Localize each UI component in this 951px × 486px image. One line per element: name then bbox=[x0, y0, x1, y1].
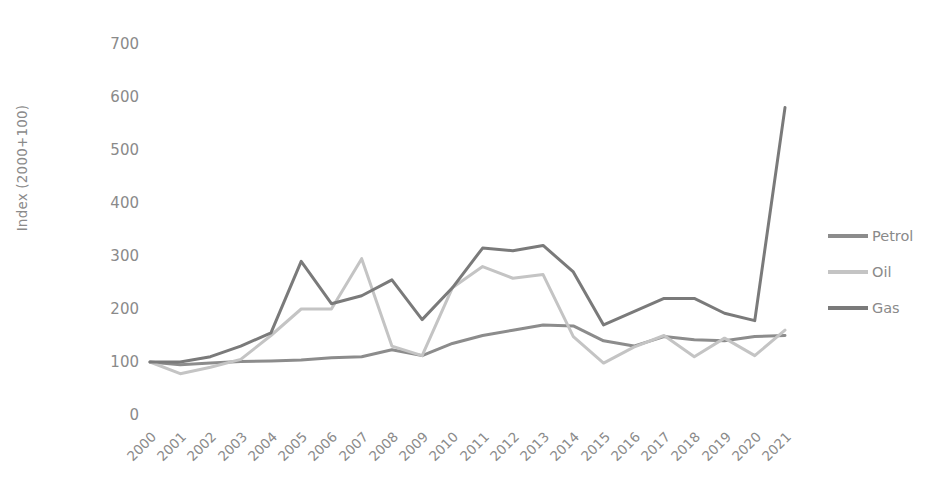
series-line-gas bbox=[150, 108, 785, 362]
plot-area bbox=[0, 0, 951, 486]
legend-label-petrol: Petrol bbox=[872, 229, 913, 244]
legend-label-gas: Gas bbox=[872, 301, 900, 316]
legend-swatch-petrol bbox=[828, 234, 868, 238]
legend-label-oil: Oil bbox=[872, 265, 891, 280]
line-chart: Index (2000+100) 0100200300400500600700 … bbox=[0, 0, 951, 486]
legend-item-petrol[interactable]: Petrol bbox=[828, 218, 948, 254]
legend-swatch-oil bbox=[828, 270, 868, 274]
legend-item-oil[interactable]: Oil bbox=[828, 254, 948, 290]
chart-legend: Petrol Oil Gas bbox=[828, 218, 948, 326]
legend-swatch-gas bbox=[828, 306, 868, 310]
series-line-oil bbox=[150, 259, 785, 374]
legend-item-gas[interactable]: Gas bbox=[828, 290, 948, 326]
